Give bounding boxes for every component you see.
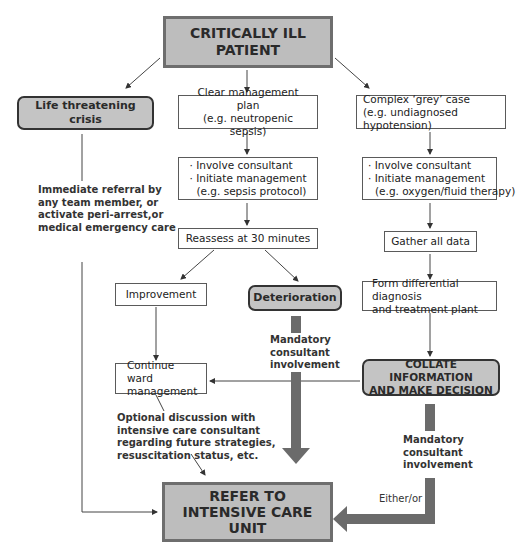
mandatory-consultant-text-middle: Mandatory consultant involvement bbox=[270, 334, 340, 372]
involve-right-bullet1: · Involve consultant bbox=[368, 159, 471, 172]
refer-icu-line2: INTENSIVE CARE bbox=[183, 504, 313, 520]
refer-icu-line1: REFER TO bbox=[209, 488, 286, 504]
gather-label: Gather all data bbox=[391, 235, 470, 248]
involve-right-example: (e.g. oxygen/fluid therapy) bbox=[368, 185, 515, 198]
thick-arrow-collate-top bbox=[425, 404, 435, 431]
arrow-reassess-to-improvement bbox=[181, 250, 214, 279]
critically-ill-line1: CRITICALLY ILL bbox=[190, 25, 306, 42]
reassess-label: Reassess at 30 minutes bbox=[186, 232, 311, 245]
mandatory-right-line3: involvement bbox=[403, 459, 473, 472]
involve-consultant-box-middle: · Involve consultant · Initiate manageme… bbox=[178, 157, 318, 200]
optional-discussion-text: Optional discussion with intensive care … bbox=[117, 412, 276, 462]
immediate-referral-line1: Immediate referral by bbox=[38, 184, 176, 197]
thick-arrow-deterioration-shaft bbox=[291, 370, 301, 451]
collate-line2: AND MAKE DECISION bbox=[369, 384, 493, 397]
improvement-label: Improvement bbox=[126, 288, 197, 301]
optional-line4: resuscitation status, etc. bbox=[117, 450, 276, 463]
involve-mid-bullet2: · Initiate management bbox=[189, 172, 306, 185]
deterioration-label: Deterioration bbox=[253, 291, 336, 305]
life-threatening-crisis-box: Life threatening crisis bbox=[17, 96, 154, 130]
differential-diagnosis-box: Form differential diagnosis and treatmen… bbox=[362, 281, 497, 311]
complex-case-line1: Complex ‘grey’ case bbox=[363, 93, 470, 106]
mandatory-right-line2: consultant bbox=[403, 447, 473, 460]
continue-ward-line2: management bbox=[127, 385, 197, 398]
clear-plan-line2: (e.g. neutropenic sepsis) bbox=[185, 112, 311, 138]
thick-arrow-deterioration-top bbox=[291, 316, 301, 333]
differential-line1: Form differential diagnosis bbox=[372, 277, 490, 303]
immediate-referral-text: Immediate referral by any team member, o… bbox=[38, 184, 176, 234]
reassess-box: Reassess at 30 minutes bbox=[178, 228, 318, 249]
clear-management-plan-box: Clear management plan (e.g. neutropenic … bbox=[178, 95, 318, 129]
collate-information-box: COLLATE INFORMATION AND MAKE DECISION bbox=[362, 359, 500, 396]
refer-icu-line3: UNIT bbox=[229, 520, 267, 536]
arrow-to-complex-case bbox=[335, 58, 369, 88]
immediate-referral-line4: medical emergency care bbox=[38, 222, 176, 235]
life-threatening-label: Life threatening crisis bbox=[19, 99, 152, 127]
optional-line2: intensive care consultant bbox=[117, 425, 276, 438]
arrow-reassess-to-deterioration bbox=[265, 250, 298, 281]
mandatory-consultant-text-right: Mandatory consultant involvement bbox=[403, 434, 473, 472]
involve-consultant-box-right: · Involve consultant · Initiate manageme… bbox=[362, 157, 497, 200]
either-or-text: Either/or bbox=[379, 493, 422, 505]
improvement-box: Improvement bbox=[115, 283, 207, 306]
thick-arrow-deterioration-head bbox=[282, 448, 310, 464]
deterioration-box: Deterioration bbox=[248, 285, 342, 311]
continue-ward-line1: Continue ward bbox=[127, 359, 200, 385]
complex-case-line2: (e.g. undiagnosed hypotension) bbox=[363, 106, 499, 132]
involve-mid-example: (e.g. sepsis protocol) bbox=[189, 185, 306, 198]
collate-line1: COLLATE INFORMATION bbox=[364, 358, 498, 384]
refer-to-icu-box: REFER TO INTENSIVE CARE UNIT bbox=[162, 482, 333, 542]
either-or-label: Either/or bbox=[379, 493, 422, 504]
involve-mid-bullet1: · Involve consultant bbox=[189, 159, 306, 172]
immediate-referral-line2: any team member, or bbox=[38, 197, 176, 210]
involve-right-bullet2: · Initiate management bbox=[368, 172, 485, 185]
immediate-referral-line3: activate peri-arrest,or bbox=[38, 209, 176, 222]
gather-data-box: Gather all data bbox=[384, 231, 477, 252]
mandatory-right-line1: Mandatory bbox=[403, 434, 473, 447]
complex-grey-case-box: Complex ‘grey’ case (e.g. undiagnosed hy… bbox=[356, 95, 506, 129]
mandatory-mid-line3: involvement bbox=[270, 359, 340, 372]
critically-ill-patient-box: CRITICALLY ILL PATIENT bbox=[163, 16, 333, 68]
optional-line1: Optional discussion with bbox=[117, 412, 276, 425]
critically-ill-line2: PATIENT bbox=[216, 42, 280, 59]
clear-plan-line1: Clear management plan bbox=[185, 86, 311, 112]
arrow-to-life-threatening bbox=[126, 58, 160, 88]
optional-line3: regarding future strategies, bbox=[117, 437, 276, 450]
differential-line2: and treatment plant bbox=[372, 303, 478, 316]
thick-arrow-collate-head bbox=[333, 506, 347, 532]
mandatory-mid-line1: Mandatory bbox=[270, 334, 340, 347]
continue-ward-management-box: Continue ward management bbox=[115, 363, 207, 394]
mandatory-mid-line2: consultant bbox=[270, 347, 340, 360]
